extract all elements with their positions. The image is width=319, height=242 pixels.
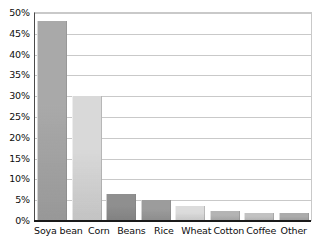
bar-slot <box>35 13 70 221</box>
x-tick-label: Coffee <box>245 223 277 242</box>
bar-slot <box>208 13 243 221</box>
bar[interactable] <box>175 206 205 221</box>
bar-chart: 0%5%10%15%20%25%30%35%40%45%50% Soya bea… <box>0 0 319 242</box>
x-tick-label: Beans <box>115 223 147 242</box>
bar-slot <box>277 13 312 221</box>
x-tick-label: Rice <box>148 223 180 242</box>
y-tick-label: 25% <box>9 111 30 122</box>
bar[interactable] <box>37 21 67 221</box>
y-tick-label: 10% <box>9 173 30 184</box>
x-tick-label: Wheat <box>180 223 212 242</box>
bar[interactable] <box>106 194 136 221</box>
y-tick-label: 20% <box>9 131 30 142</box>
x-tick-label: Other <box>278 223 310 242</box>
x-tick-label: Soya bean <box>34 223 83 242</box>
bar[interactable] <box>141 200 171 221</box>
y-tick-label: 50% <box>9 7 30 18</box>
bar-slot <box>70 13 105 221</box>
bar[interactable] <box>72 96 102 221</box>
y-tick-label: 40% <box>9 48 30 59</box>
y-tick-label: 45% <box>9 27 30 38</box>
y-tick-label: 15% <box>9 152 30 163</box>
plot-area <box>34 12 312 221</box>
bar-slot <box>242 13 277 221</box>
y-tick-label: 30% <box>9 90 30 101</box>
bar-slot <box>173 13 208 221</box>
x-tick-label: Cotton <box>213 223 245 242</box>
y-tick-label: 35% <box>9 69 30 80</box>
x-tick-label: Corn <box>83 223 115 242</box>
x-axis: Soya beanCornBeansRiceWheatCottonCoffeeO… <box>34 223 310 242</box>
bars-layer <box>35 13 311 221</box>
bar-slot <box>104 13 139 221</box>
y-axis: 0%5%10%15%20%25%30%35%40%45%50% <box>0 0 33 242</box>
bar-slot <box>139 13 174 221</box>
y-tick-label: 0% <box>15 215 30 226</box>
y-tick-label: 5% <box>15 194 30 205</box>
x-axis-line <box>34 220 311 222</box>
